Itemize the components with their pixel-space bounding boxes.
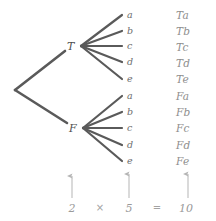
leaf-label-t-c: c — [127, 41, 132, 51]
leaf-label-t-b: b — [127, 26, 133, 36]
node-label-f: F — [69, 123, 77, 134]
equation-term-2: 5 — [126, 203, 133, 214]
branch-t-to-a — [81, 15, 122, 46]
outcome-label-td: Td — [176, 58, 190, 69]
branch-f-to-d — [83, 128, 122, 145]
branch-t-to-b — [81, 31, 122, 46]
leaf-label-f-d: d — [127, 140, 133, 150]
leaf-label-f-c: c — [127, 123, 132, 133]
leaf-label-t-a: a — [127, 10, 133, 20]
outcome-label-tc: Tc — [176, 42, 189, 53]
branch-f-to-b — [83, 112, 122, 128]
leaf-label-f-b: b — [127, 107, 133, 117]
outcome-label-tb: Tb — [176, 26, 190, 37]
node-label-t: T — [67, 41, 74, 52]
leaf-label-t-e: e — [127, 74, 133, 84]
branch-root-to-t — [15, 51, 65, 90]
equation-term-3: = — [153, 203, 161, 213]
outcome-label-fe: Fe — [176, 156, 190, 167]
branch-layer — [15, 15, 122, 161]
arrow-layer — [72, 174, 188, 198]
outcome-label-fa: Fa — [176, 91, 189, 102]
tree-diagram-canvas: TFabcdeabcdeTaTbTcTdTeFaFbFcFdFe2×5=10 — [0, 0, 216, 221]
leaf-label-t-d: d — [127, 57, 133, 67]
outcome-label-fc: Fc — [176, 123, 190, 134]
outcome-label-te: Te — [176, 74, 189, 85]
branch-t-to-d — [81, 46, 122, 62]
branch-f-to-e — [83, 128, 122, 161]
equation-term-4: 10 — [179, 203, 193, 214]
outcome-label-fb: Fb — [176, 107, 191, 118]
outcome-label-fd: Fd — [176, 140, 191, 151]
branch-f-to-a — [83, 96, 122, 128]
equation-term-0: 2 — [69, 203, 76, 214]
leaf-label-f-a: a — [127, 91, 133, 101]
leaf-label-f-e: e — [127, 156, 133, 166]
branch-root-to-f — [15, 90, 67, 123]
outcome-label-ta: Ta — [176, 10, 189, 21]
branch-t-to-e — [81, 46, 122, 79]
equation-term-1: × — [96, 203, 104, 213]
